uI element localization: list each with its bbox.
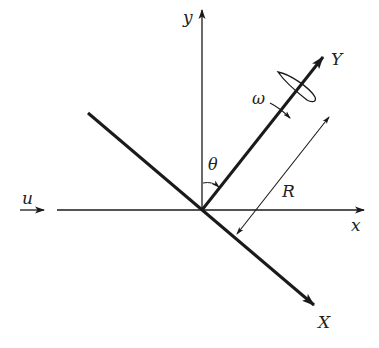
theta-arc (203, 183, 219, 188)
R-dimension-arrow (237, 117, 329, 234)
y-axis-label: y (182, 7, 193, 27)
airfoil-icon (278, 72, 315, 102)
freestream-label: u (22, 188, 33, 208)
x-axis-label: x (351, 215, 361, 235)
theta-label: θ (208, 155, 218, 174)
R-label: R (281, 181, 295, 201)
clipped-caption (0, 341, 379, 348)
body-Y-label: Y (331, 49, 344, 69)
rotated-frame-diagram: x y u X Y θ ω R (0, 0, 379, 348)
omega-label: ω (252, 89, 265, 108)
body-X-label: X (316, 312, 331, 332)
body-Y-axis (202, 57, 323, 210)
